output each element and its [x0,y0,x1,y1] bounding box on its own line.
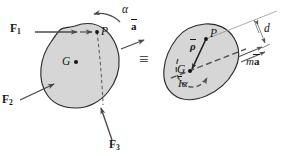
angular-acceleration-arc [94,13,120,22]
couple-label: Iα [178,78,187,89]
point-label-g-left: G [62,56,70,68]
effective-force-label: ma [246,56,259,67]
equivalence-symbol: ≡ [139,50,149,70]
distance-label-d: d [264,23,270,35]
force-label-f1: F1 [10,23,21,35]
acceleration-label: a [131,21,137,32]
angular-acceleration-label: α [122,4,128,16]
point-label-p-right: P [210,28,217,40]
point-p-right-marker [204,37,208,41]
force-f3-arrow [101,108,112,140]
rho-vector-label: ρ [190,41,196,52]
figure-container: F1 F2 F3 α P G a ≡ P G ρ Iα ma d [0,0,284,156]
point-g-right-marker [188,69,192,73]
point-g-left-marker [74,60,78,64]
figure-graphics [0,0,284,156]
point-label-g-right: G [177,64,185,76]
force-label-f2: F2 [2,94,13,106]
force-label-f3: F3 [109,139,120,151]
point-p-left-marker [95,30,99,34]
right-body-shape [164,24,239,100]
acceleration-vector-arrow [121,40,144,49]
point-label-p-left: P [101,26,108,38]
